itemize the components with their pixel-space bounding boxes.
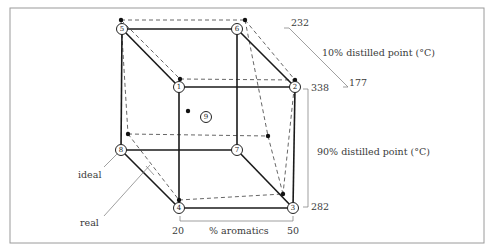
- z-axis-bracket: 232 177 10% distilled point (°C): [284, 17, 435, 88]
- real-point-6: [243, 18, 247, 22]
- svg-text:8: 8: [119, 146, 123, 154]
- design-nodes: 1 2 3 4 5 6 7 8 9: [116, 24, 301, 214]
- real-label: real: [80, 217, 99, 228]
- z-axis-label: 10% distilled point (°C): [322, 47, 435, 58]
- x-axis-bracket: 20 % aromatics 50: [172, 216, 299, 236]
- real-point-5: [119, 18, 123, 22]
- node-1: 1: [174, 82, 185, 93]
- real-cube: [121, 20, 295, 200]
- y-axis-label: 90% distilled point (°C): [317, 146, 430, 157]
- x-axis-max-label: 50: [287, 225, 299, 236]
- real-point-8: [126, 132, 130, 136]
- real-point-7: [266, 134, 270, 138]
- y-axis-min-label: 282: [311, 201, 329, 212]
- node-2: 2: [290, 82, 301, 93]
- node-9: 9: [201, 112, 212, 123]
- z-axis-min-label: 177: [349, 77, 367, 88]
- real-point-9: [186, 109, 190, 113]
- node-7: 7: [232, 145, 243, 156]
- svg-text:9: 9: [204, 113, 208, 121]
- real-point-4: [177, 198, 181, 202]
- x-axis-label: % aromatics: [209, 225, 269, 236]
- svg-text:4: 4: [177, 204, 182, 212]
- real-point-1: [178, 77, 182, 81]
- node-5: 5: [117, 24, 128, 35]
- svg-text:7: 7: [235, 146, 239, 154]
- x-axis-min-label: 20: [172, 225, 184, 236]
- z-axis-max-label: 232: [291, 17, 309, 28]
- real-point-3: [281, 192, 285, 196]
- y-axis-max-label: 338: [311, 82, 329, 93]
- svg-text:1: 1: [177, 83, 181, 91]
- y-axis-bracket: 338 282 90% distilled point (°C): [303, 82, 430, 212]
- svg-text:6: 6: [235, 25, 240, 33]
- node-4: 4: [174, 203, 185, 214]
- svg-text:2: 2: [293, 83, 297, 91]
- ideal-label: ideal: [78, 169, 101, 180]
- legend-annotations: ideal real: [78, 153, 154, 228]
- svg-text:3: 3: [291, 204, 295, 212]
- node-6: 6: [232, 24, 243, 35]
- node-3: 3: [288, 203, 299, 214]
- cube-design-diagram: 1 2 3 4 5 6 7 8 9 232 177 10% distilled …: [0, 0, 494, 252]
- figure-caption-clipped: [10, 246, 310, 252]
- svg-text:5: 5: [120, 25, 124, 33]
